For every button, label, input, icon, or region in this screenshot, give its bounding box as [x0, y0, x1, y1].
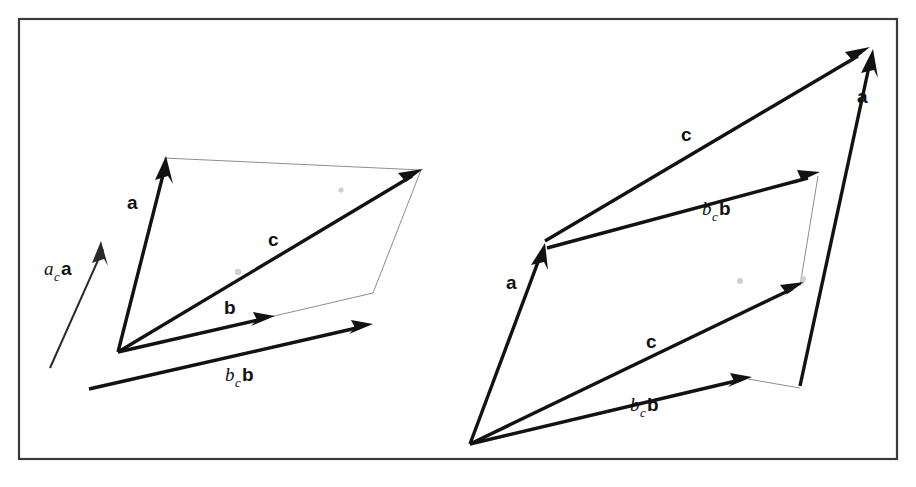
- label-scalar-b: b: [630, 394, 640, 415]
- label-scalar-a: a: [44, 258, 54, 279]
- label-vector-b: b: [224, 297, 236, 318]
- label-scalar-b: b: [225, 364, 235, 385]
- label-vector-c: c: [268, 229, 279, 250]
- label-bold-b: b: [647, 394, 659, 415]
- vector-diagram-canvas: a b c a c a b c b: [0, 0, 916, 487]
- scan-speck: [235, 269, 241, 275]
- label-subscript-c: c: [54, 269, 60, 284]
- scan-speck: [800, 276, 806, 282]
- label-vector-a-lower-left: a: [506, 272, 517, 293]
- label-vector-c-upper: c: [681, 124, 692, 145]
- label-vector-c-lower: c: [646, 331, 657, 352]
- label-bold-b: b: [242, 364, 254, 385]
- label-subscript-c: c: [235, 375, 241, 390]
- figure-container: a b c a c a b c b: [0, 0, 916, 487]
- label-vector-a-right: a: [857, 86, 868, 107]
- label-subscript-c: c: [712, 209, 718, 224]
- label-scalar-b: b: [702, 198, 712, 219]
- label-vector-a: a: [127, 192, 138, 213]
- label-bold-a: a: [61, 258, 72, 279]
- label-bold-b: b: [719, 198, 731, 219]
- label-subscript-c: c: [640, 405, 646, 420]
- figure-background: [0, 0, 916, 487]
- scan-speck: [737, 278, 743, 284]
- scan-speck: [338, 187, 343, 192]
